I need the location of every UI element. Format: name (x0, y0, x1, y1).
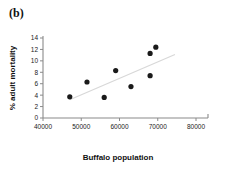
y-tick-label: 4 (34, 92, 38, 99)
trend-line-group (70, 55, 175, 100)
y-tick-label: 14 (31, 34, 39, 41)
y-tick-label: 10 (31, 57, 39, 64)
x-tick-label: 50000 (72, 123, 90, 130)
x-axis-title: Buffalo population (83, 153, 154, 162)
x-axis-line (43, 114, 208, 118)
x-tick-label: 40000 (34, 123, 52, 130)
data-point (102, 95, 107, 100)
figure-panel: (b) 02468101214 400005000060000700008000… (0, 0, 236, 172)
data-point (148, 51, 153, 56)
data-points-group (67, 45, 158, 100)
data-point (153, 45, 158, 50)
axes-group (40, 36, 208, 121)
y-tick-label: 2 (34, 103, 38, 110)
y-tick-label: 8 (34, 69, 38, 76)
x-tick-label: 60000 (110, 123, 128, 130)
data-point (128, 84, 133, 89)
data-point (67, 94, 72, 99)
y-axis-title: % adult mortality (8, 45, 17, 110)
y-tick-label: 0 (34, 114, 38, 121)
y-tick-label: 6 (34, 80, 38, 87)
x-axis-tick-labels: 4000050000600007000080000 (34, 123, 205, 130)
x-tick-label: 70000 (149, 123, 167, 130)
data-point (84, 79, 89, 84)
y-axis-tick-labels: 02468101214 (31, 34, 39, 121)
trend-line (70, 55, 175, 100)
data-point (148, 73, 153, 78)
x-tick-label: 80000 (187, 123, 205, 130)
scatter-plot: 02468101214 4000050000600007000080000 Bu… (0, 0, 236, 172)
data-point (113, 68, 118, 73)
y-tick-label: 12 (31, 46, 39, 53)
